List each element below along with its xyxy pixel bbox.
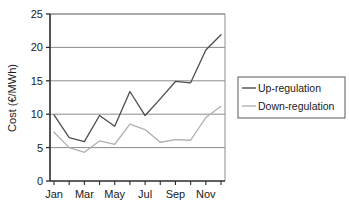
x-tick-label-Jan: Jan <box>45 188 63 200</box>
x-tick-label-Jul: Jul <box>138 188 152 200</box>
x-tick-label-Nov: Nov <box>196 188 216 200</box>
y-tick-label-10: 10 <box>31 108 43 120</box>
x-tick-label-May: May <box>104 188 125 200</box>
y-tick-label-5: 5 <box>37 142 43 154</box>
y-tick-label-0: 0 <box>37 175 43 187</box>
x-tick-label-Mar: Mar <box>75 188 94 200</box>
y-axis-title: Cost (€/MWh) <box>6 64 18 132</box>
legend: Up-regulation Down-regulation <box>238 77 345 118</box>
x-tick-label-Sep: Sep <box>166 188 186 200</box>
legend-label-down-regulation: Down-regulation <box>258 100 335 112</box>
y-tick-label-20: 20 <box>31 41 43 53</box>
legend-label-up-regulation: Up-regulation <box>258 82 321 94</box>
line-chart-svg: 0510152025 JanMarMayJulSepNov Cost (€/MW… <box>0 0 349 215</box>
y-tick-label-15: 15 <box>31 75 43 87</box>
chart-figure: 0510152025 JanMarMayJulSepNov Cost (€/MW… <box>0 0 349 215</box>
y-tick-label-25: 25 <box>31 8 43 20</box>
